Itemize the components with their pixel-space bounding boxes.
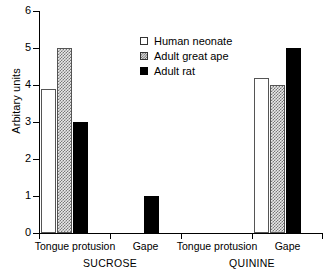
x-tick-mark-4 — [322, 234, 323, 239]
y-tick-label-1: 1 — [14, 190, 31, 201]
condition-label-sucrose: SUCROSE — [39, 257, 181, 269]
y-tick-label-2: 2 — [14, 153, 31, 164]
y-tick-label-6: 6 — [14, 5, 31, 16]
y-tick-label-3: 3 — [14, 116, 31, 127]
open-square-icon — [140, 37, 148, 45]
x-group-label-quinine-gape: Gape — [252, 240, 323, 252]
bar-sucrose-tongue-protusion-adult-great-ape — [57, 48, 72, 233]
chart-legend: Human neonate Adult great ape Adult rat — [140, 35, 232, 80]
x-tick-mark-0 — [39, 234, 40, 239]
legend-item-adult-great-ape: Adult great ape — [140, 50, 232, 62]
y-tick-label-4: 4 — [14, 79, 31, 90]
y-axis-label: Arbitary units — [10, 41, 22, 161]
bar-chart-figure: Arbitary units 6 5 4 3 2 1 0 Tongue prot… — [0, 0, 327, 275]
bar-sucrose-gape-adult-rat — [144, 196, 159, 233]
bar-sucrose-tongue-protusion-human-neonate — [41, 89, 56, 233]
legend-label-human-neonate: Human neonate — [154, 36, 232, 47]
legend-label-adult-great-ape: Adult great ape — [154, 51, 229, 62]
bar-quinine-gape-human-neonate — [254, 78, 269, 233]
y-tick-label-5: 5 — [14, 42, 31, 53]
hatched-square-icon — [140, 52, 148, 60]
x-tick-mark-3 — [252, 234, 253, 239]
filled-square-icon — [140, 67, 148, 75]
y-tick-label-0: 0 — [14, 227, 31, 238]
x-tick-mark-2 — [181, 234, 182, 239]
bar-sucrose-tongue-protusion-adult-rat — [73, 122, 88, 233]
bar-quinine-gape-adult-rat — [286, 48, 301, 233]
x-tick-mark-1 — [110, 234, 111, 239]
legend-item-adult-rat: Adult rat — [140, 65, 232, 77]
legend-item-human-neonate: Human neonate — [140, 35, 232, 47]
condition-label-quinine: QUININE — [181, 257, 323, 269]
legend-label-adult-rat: Adult rat — [154, 66, 195, 77]
bar-quinine-gape-adult-great-ape — [270, 85, 285, 233]
